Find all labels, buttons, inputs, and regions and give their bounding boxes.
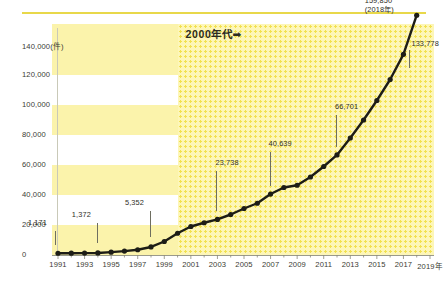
x-tick-label: 2005 <box>235 260 252 269</box>
y-axis-tick-labels: 020,00040,00060,00080,000100,000120,0001… <box>0 0 55 284</box>
annotation-leader-line <box>270 152 271 186</box>
annotation-value-label: 1,171 <box>28 219 47 228</box>
annotation-leader-line <box>409 50 410 68</box>
x-tick-label: 1999 <box>156 260 173 269</box>
annotation-value-label: 40,639 <box>269 140 292 149</box>
x-tick-label: 2009 <box>288 260 305 269</box>
x-tick-label: 2013 <box>342 260 359 269</box>
x-tick-label: 2011 <box>315 260 332 269</box>
x-tick-label: 1991 <box>49 260 66 269</box>
annotation-value-label: 23,738 <box>215 159 238 168</box>
y-tick-label: 140,000(件) <box>22 40 64 51</box>
y-tick-label: 0 <box>22 250 26 259</box>
annotation-value-label: 1,372 <box>72 211 91 220</box>
annotation-leader-line <box>336 115 337 147</box>
x-tick-label: 2001 <box>182 260 199 269</box>
annotation-value-label: 66,701 <box>335 103 358 112</box>
x-tick-label: 1993 <box>76 260 93 269</box>
y-axis-line <box>57 28 58 256</box>
x-tick-label: 2017 <box>395 260 412 269</box>
annotation-leader-line <box>55 231 56 245</box>
y-tick-label: 60,000 <box>22 160 46 169</box>
x-tick-label: 1997 <box>129 260 146 269</box>
annotation-value-label: 5,352 <box>125 199 144 208</box>
y-tick-label: 40,000 <box>22 190 46 199</box>
annotation-leader-line <box>150 211 151 237</box>
annotation-value-label: 159,850(2018年) <box>365 0 394 14</box>
y-tick-label: 80,000 <box>22 130 46 139</box>
annotation-leader-line <box>97 223 98 243</box>
x-axis-line <box>52 255 434 256</box>
x-tick-label: 2007 <box>262 260 279 269</box>
x-tick-label: 2019年 <box>417 260 442 271</box>
x-tick-label: 2003 <box>209 260 226 269</box>
x-tick-label: 2015 <box>368 260 385 269</box>
annotation-leader-line <box>216 171 217 211</box>
annotation-sub-label: (2018年) <box>365 6 394 15</box>
y-tick-label: 100,000 <box>22 100 50 109</box>
y-tick-label: 120,000 <box>22 70 50 79</box>
x-tick-label: 1995 <box>102 260 119 269</box>
chart-page: 020,00040,00060,00080,000100,000120,0001… <box>0 0 448 284</box>
era-badge-2000s: 2000年代➡ <box>186 26 242 41</box>
plot-area <box>0 0 448 284</box>
era-shading-2000s <box>178 24 434 255</box>
annotation-value-label: 133,778 <box>411 40 438 49</box>
